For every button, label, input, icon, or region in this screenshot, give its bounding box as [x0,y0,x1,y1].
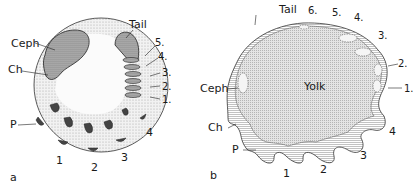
diagram-panel-a: Ceph Ch P Tail 5. 4. 3. 2. 1. 1 2 3 4 a [0,0,210,187]
somite-label-4: 4. [354,12,364,23]
arch-label-3: 3 [360,150,367,161]
diagram-panel-b: Ceph Ch P Tail Yolk 6. 5. 4. 3. 2. 1. 1 … [208,0,418,187]
label-p: P [10,119,17,130]
arch-label-3: 3 [121,152,128,163]
panel-label-b: b [210,170,217,181]
embryo-drawing-b [208,0,418,187]
label-ch: Ch [8,64,23,75]
somite-label-6: 6. [308,5,318,16]
somite-label-3: 3. [162,67,172,78]
somite-label-5: 5. [155,37,165,48]
somite-label-5: 5. [332,7,342,18]
embryo-drawing-a [0,0,210,187]
somite-label-2: 2. [398,58,408,69]
somite-label-1: 1. [404,83,414,94]
arch-label-1: 1 [283,168,290,179]
arch-label-2: 2 [320,164,327,175]
label-tail: Tail [129,19,147,30]
somite-label-2: 2. [162,81,172,92]
arch-label-2: 2 [91,162,98,173]
somite-label-4: 4. [158,51,168,62]
label-yolk: Yolk [304,81,325,92]
label-ch: Ch [208,122,223,133]
label-tail: Tail [279,4,297,15]
label-ceph: Ceph [200,83,228,94]
arch-label-4: 4 [389,126,396,137]
arch-label-4: 4 [146,127,153,138]
panel-label-a: a [10,172,17,183]
somite-label-3: 3. [378,30,388,41]
somite-label-1: 1. [162,94,172,105]
arch-label-1: 1 [56,155,63,166]
label-p: P [232,144,239,155]
label-ceph: Ceph [11,38,39,49]
